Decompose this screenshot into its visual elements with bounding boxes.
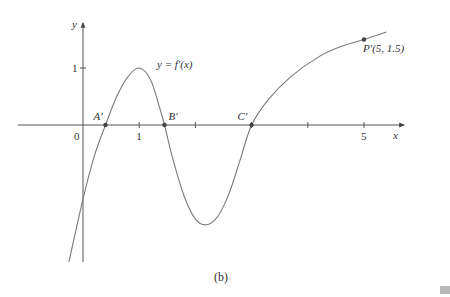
x-tick-label: 5 xyxy=(361,130,367,142)
labeled-points: A′B′C′P′(5, 1.5) xyxy=(92,37,404,127)
derivative-graph-figure: A′B′C′P′(5, 1.5) yx0151y = f′(x) (b) xyxy=(0,0,450,297)
point-label: A′ xyxy=(92,110,103,122)
derivative-curve xyxy=(69,32,387,262)
point-marker xyxy=(103,123,107,127)
axes xyxy=(18,23,404,262)
x-tick-label: 0 xyxy=(74,130,80,142)
point-marker xyxy=(249,123,253,127)
point-label: B′ xyxy=(168,110,178,122)
point-marker xyxy=(162,123,166,127)
page-marker xyxy=(440,286,450,294)
y-tick-label: 1 xyxy=(72,62,78,74)
axis-labels: yx0151y = f′(x) xyxy=(71,18,398,142)
curve-label: y = f′(x) xyxy=(156,58,193,71)
tick-marks xyxy=(80,68,364,128)
x-tick-label: 1 xyxy=(136,130,142,142)
plot-area: A′B′C′P′(5, 1.5) yx0151y = f′(x) xyxy=(0,0,450,297)
point-label: P′(5, 1.5) xyxy=(362,42,405,55)
point-label: C′ xyxy=(238,110,248,122)
y-axis-label: y xyxy=(71,18,77,30)
figure-caption: (b) xyxy=(214,270,228,285)
x-axis-label: x xyxy=(392,129,398,141)
